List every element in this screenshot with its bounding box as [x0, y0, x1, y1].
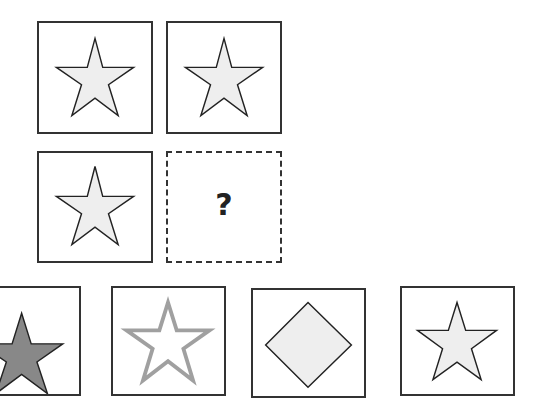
grid-cell-r1c1 [37, 21, 153, 134]
grid-cell-r1c2 [166, 21, 282, 134]
star-icon [168, 23, 280, 132]
option-3[interactable] [251, 288, 366, 398]
option-4[interactable] [400, 286, 515, 396]
missing-cell[interactable]: ? [166, 151, 282, 263]
grid-cell-r2c1 [37, 151, 153, 263]
outline-star-icon [113, 288, 224, 394]
option-1[interactable] [0, 286, 81, 396]
diamond-icon [253, 290, 364, 396]
dark-star-icon [0, 288, 79, 394]
star-icon [39, 153, 151, 261]
star-icon [402, 288, 513, 394]
option-2[interactable] [111, 286, 226, 396]
star-icon [39, 23, 151, 132]
question-mark: ? [168, 187, 280, 222]
